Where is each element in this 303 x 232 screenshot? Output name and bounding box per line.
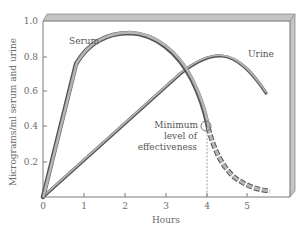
y-axis bbox=[43, 21, 47, 197]
x-tick-label: 0 bbox=[40, 201, 46, 211]
urine-label: Urine bbox=[248, 49, 274, 59]
annotation-line-2: level of bbox=[164, 131, 198, 141]
x-tick-label: 4 bbox=[204, 201, 210, 211]
x-axis bbox=[43, 193, 290, 197]
x-tick-label: 2 bbox=[122, 201, 128, 211]
x-tick-label: 5 bbox=[244, 201, 250, 211]
x-tick-label: 1 bbox=[81, 201, 87, 211]
annotation-line-3: effectiveness bbox=[138, 142, 198, 152]
y-tick-label: 0.2 bbox=[24, 157, 38, 167]
annotation-line-1: Minimum bbox=[154, 120, 198, 130]
y-tick-label: 1.0 bbox=[24, 16, 39, 26]
x-tick-label: 3 bbox=[163, 201, 169, 211]
y-tick-label: 0.4 bbox=[24, 121, 39, 131]
chart: 0.2 0.4 0.6 0.8 1.0 0 1 2 3 4 5 Hours Mi… bbox=[0, 0, 303, 232]
x-axis-title: Hours bbox=[152, 215, 180, 225]
serum-label: Serum bbox=[69, 36, 100, 46]
serum-series bbox=[43, 32, 270, 197]
y-tick-label: 0.6 bbox=[24, 86, 39, 96]
y-axis-title: Micrograms/ml serum and urine bbox=[8, 38, 18, 186]
y-tick-label: 0.8 bbox=[24, 52, 39, 62]
